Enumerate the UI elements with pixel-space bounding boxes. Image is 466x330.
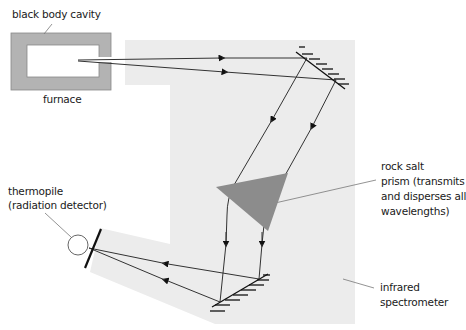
leader-cavity: [44, 24, 52, 34]
label-prism-2: prism (transmits: [381, 174, 465, 189]
label-prism-1: rock salt: [381, 159, 424, 174]
label-furnace: furnace: [43, 92, 81, 107]
label-black-body-cavity: black body cavity: [12, 7, 101, 22]
label-prism-4: wavelengths): [381, 204, 449, 219]
leader-thermopile: [45, 213, 71, 237]
label-infrared-1: infrared: [380, 280, 420, 295]
label-infrared-2: spectrometer: [380, 295, 448, 310]
thermopile-detector: [68, 235, 88, 255]
furnace: [11, 33, 112, 90]
label-thermopile-2: (radiation detector): [8, 198, 107, 213]
label-prism-3: and disperses all: [381, 189, 466, 204]
label-thermopile-1: thermopile: [8, 184, 63, 199]
